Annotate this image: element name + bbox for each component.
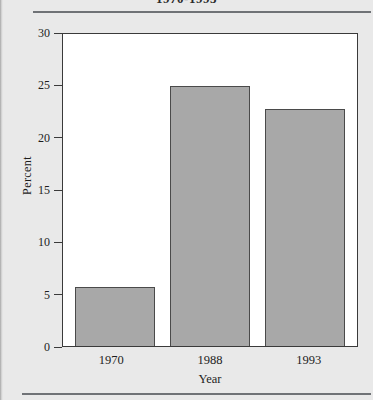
bottom-rule xyxy=(22,393,371,395)
x-axis-tick-label: 1988 xyxy=(170,353,250,368)
y-axis-tick-label: 0 xyxy=(26,341,50,353)
x-axis-tick-labels: 197019881993 xyxy=(62,353,358,368)
y-axis-tick-label: 25 xyxy=(26,79,50,91)
x-axis-tick-label: 1970 xyxy=(71,353,151,368)
top-rule xyxy=(33,11,371,13)
y-axis-tick-label: 10 xyxy=(26,236,50,248)
running-title-clip: 1970-1993 xyxy=(0,0,373,7)
x-axis-title: Year xyxy=(62,372,358,387)
bar-1970 xyxy=(75,287,155,346)
chart-page: 1970-1993 Percent 197019881993 Year 0510… xyxy=(0,0,373,400)
y-axis-tick-label: 15 xyxy=(26,184,50,196)
x-axis-tick-label: 1993 xyxy=(269,353,349,368)
bar-1993 xyxy=(265,109,345,346)
y-axis-tick xyxy=(54,347,62,348)
y-axis-tick xyxy=(54,137,62,138)
y-axis-tick-label: 30 xyxy=(26,27,50,39)
bar-1988 xyxy=(170,86,250,346)
running-title: 1970-1993 xyxy=(0,0,373,7)
y-axis-tick-label: 5 xyxy=(26,289,50,301)
y-axis-tick xyxy=(54,242,62,243)
bar-series xyxy=(63,34,357,346)
y-axis-tick xyxy=(54,33,62,34)
plot-frame xyxy=(62,33,358,347)
y-axis-tick xyxy=(54,85,62,86)
y-axis-tick xyxy=(54,190,62,191)
y-axis-title: Percent xyxy=(20,146,35,206)
plot-area xyxy=(63,34,357,346)
y-axis-tick-label: 20 xyxy=(26,132,50,144)
y-axis-tick xyxy=(54,294,62,295)
